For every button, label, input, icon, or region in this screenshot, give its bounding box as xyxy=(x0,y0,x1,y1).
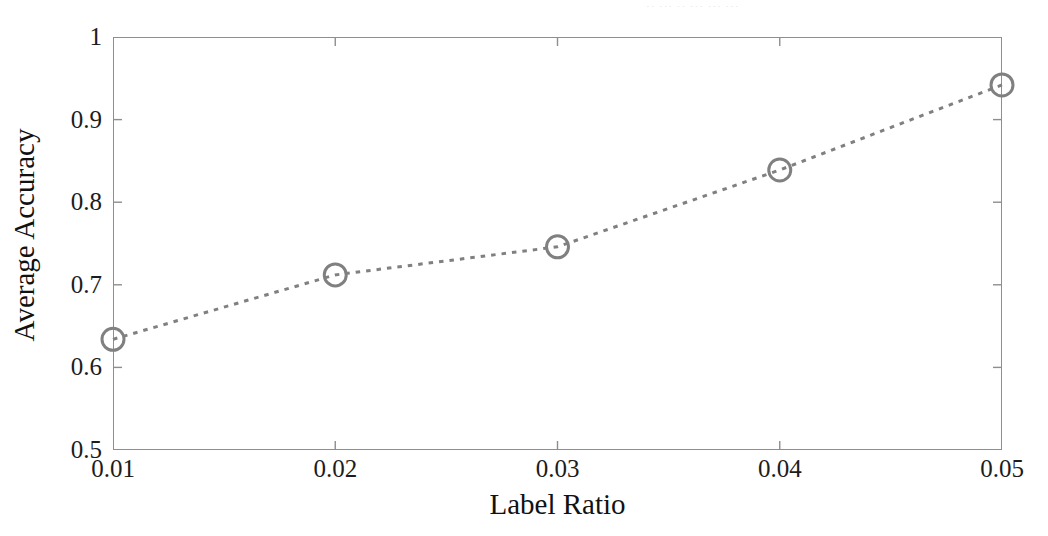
x-axis-title: Label Ratio xyxy=(113,487,1002,521)
x-tick-label: 0.04 xyxy=(720,455,840,483)
chart-figure: ·· ··· ·· ··· ··· ··· 0.50.60.70.80.91 0… xyxy=(0,0,1048,536)
y-axis-title-wrapper: Average Accuracy xyxy=(4,25,44,445)
x-tick-label: 0.02 xyxy=(275,455,395,483)
x-tick-label: 0.05 xyxy=(942,455,1048,483)
y-axis-title: Average Accuracy xyxy=(4,25,44,445)
x-tick-label: 0.01 xyxy=(53,455,173,483)
x-tick-label: 0.03 xyxy=(498,455,618,483)
x-axis-tick-labels: 0.010.020.030.040.05 xyxy=(0,0,1048,536)
